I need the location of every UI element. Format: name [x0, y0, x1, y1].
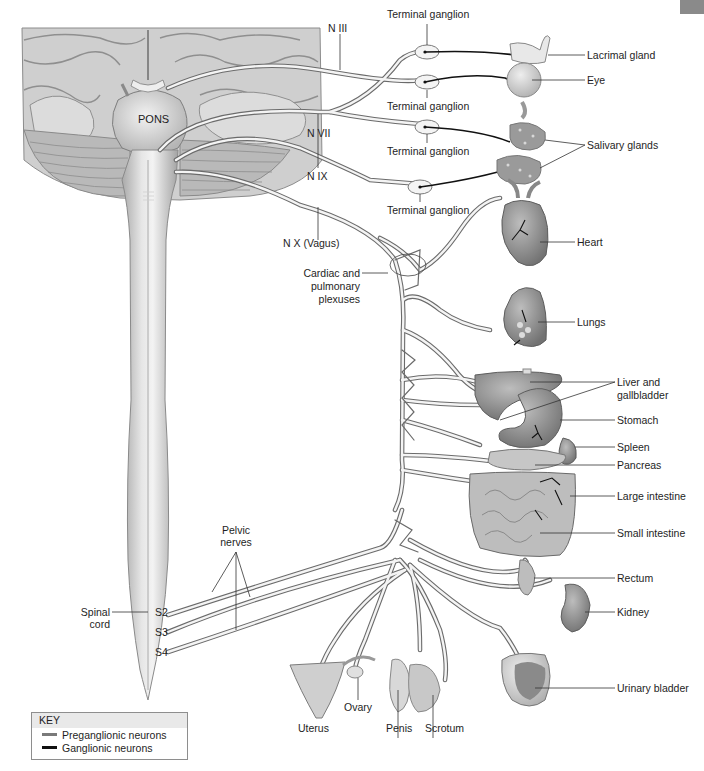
- label-n-ix: N IX: [307, 170, 327, 182]
- label-small-intestine: Small intestine: [617, 527, 685, 539]
- label-kidney: Kidney: [617, 606, 649, 618]
- legend-swatch-preganglionic-icon: [42, 733, 57, 736]
- label-pons: PONS: [138, 113, 169, 125]
- label-s2: S2: [155, 606, 168, 618]
- label-heart: Heart: [577, 236, 603, 248]
- label-liver-1: Liver and: [617, 376, 660, 388]
- label-terminal-ganglion-2: Terminal ganglion: [387, 100, 469, 112]
- legend-title: KEY: [32, 713, 187, 728]
- label-plexus-2: pulmonary: [300, 280, 360, 292]
- label-n-vii: N VII: [307, 127, 330, 139]
- label-eye: Eye: [587, 74, 605, 86]
- label-n-x-vagus: N X (Vagus): [283, 237, 339, 249]
- label-s3: S3: [155, 626, 168, 638]
- label-pelvic-2: nerves: [216, 536, 256, 548]
- label-ovary: Ovary: [344, 701, 372, 713]
- label-stomach: Stomach: [617, 414, 658, 426]
- legend-item-preganglionic: Preganglionic neurons: [32, 728, 187, 741]
- legend-key: KEY Preganglionic neurons Ganglionic neu…: [31, 712, 188, 760]
- label-salivary-glands: Salivary glands: [587, 139, 658, 151]
- spinal-cord: [122, 150, 178, 700]
- label-lacrimal-gland: Lacrimal gland: [587, 49, 655, 61]
- label-rectum: Rectum: [617, 572, 653, 584]
- diagram-canvas: [0, 0, 704, 771]
- label-spleen: Spleen: [617, 441, 650, 453]
- label-pelvic-1: Pelvic: [216, 524, 256, 536]
- label-scrotum: Scrotum: [425, 722, 464, 734]
- label-uterus: Uterus: [298, 722, 329, 734]
- label-plexus-3: plexuses: [300, 293, 360, 305]
- label-terminal-ganglion-3: Terminal ganglion: [387, 145, 469, 157]
- legend-swatch-ganglionic-icon: [42, 746, 57, 749]
- label-plexus-1: Cardiac and: [300, 267, 360, 279]
- label-pancreas: Pancreas: [617, 459, 661, 471]
- label-spinal-1: Spinal: [70, 606, 110, 618]
- legend-label-ganglionic: Ganglionic neurons: [62, 742, 152, 754]
- label-penis: Penis: [386, 722, 412, 734]
- label-terminal-ganglion-1: Terminal ganglion: [387, 8, 469, 20]
- label-n-iii: N III: [328, 22, 347, 34]
- label-urinary-bladder: Urinary bladder: [617, 682, 689, 694]
- legend-label-preganglionic: Preganglionic neurons: [62, 729, 167, 741]
- legend-item-ganglionic: Ganglionic neurons: [32, 741, 187, 754]
- label-s4: S4: [155, 646, 168, 658]
- label-spinal-2: cord: [70, 618, 110, 630]
- label-lungs: Lungs: [577, 316, 606, 328]
- label-large-intestine: Large intestine: [617, 490, 686, 502]
- label-liver-2: gallbladder: [617, 389, 668, 401]
- label-terminal-ganglion-4: Terminal ganglion: [387, 204, 469, 216]
